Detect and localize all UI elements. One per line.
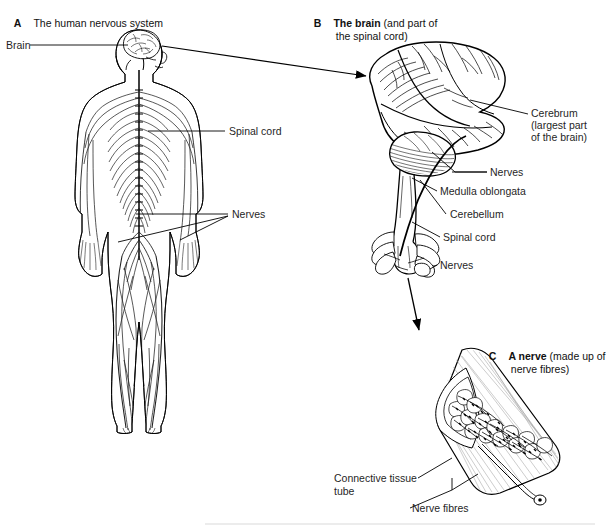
label-cerebrum: Cerebrum: [531, 107, 578, 120]
label-connective-tissue-tube-1: Connective tissue: [334, 472, 417, 485]
label-cerebellum: Cerebellum: [450, 208, 504, 221]
panel-b-letter: B: [314, 17, 322, 29]
panel-a-title: The human nervous system: [33, 17, 163, 29]
panel-a-letter: A: [14, 17, 22, 29]
label-nerves-b-lower: Nerves: [440, 259, 473, 272]
panel-b-paren-line-2: the spinal cord): [336, 30, 408, 42]
panel-c-header-line2: nerve fibres): [505, 350, 569, 376]
label-spinal-cord-a: Spinal cord: [229, 125, 282, 138]
label-brain: Brain: [6, 39, 31, 52]
panel-c-letter: C: [489, 350, 497, 362]
label-cerebrum-note-1: (largest part: [531, 119, 587, 132]
label-connective-tissue-tube-2: tube: [334, 485, 354, 498]
panel-b-header-line2: the spinal cord): [330, 17, 408, 43]
panel-c-paren-line-2: nerve fibres): [511, 363, 569, 375]
label-nerve-fibres: Nerve fibres: [412, 502, 469, 515]
panel-a-header: AThe human nervous system: [8, 4, 163, 30]
arrow-body-to-brain: [162, 46, 366, 76]
human-body-illustration: [75, 30, 203, 435]
label-nerves-a: Nerves: [232, 208, 265, 221]
label-medulla-oblongata: Medulla oblongata: [440, 185, 526, 198]
label-cerebrum-note-2: of the brain): [531, 131, 587, 144]
arrow-brain-to-nerve: [408, 278, 419, 330]
label-spinal-cord-b: Spinal cord: [443, 231, 496, 244]
label-nerves-b-upper: Nerves: [490, 166, 523, 179]
